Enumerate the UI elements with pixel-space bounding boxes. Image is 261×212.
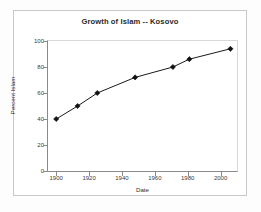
x-tick-label: 1960 [148, 175, 161, 181]
x-tick-label: 1980 [181, 175, 194, 181]
data-point-marker [187, 57, 192, 62]
line-series-svg [48, 41, 237, 171]
chart-page: Growth of Islam -- Kosovo Percent Islam … [0, 0, 261, 212]
y-tick-label: 100 [26, 38, 44, 44]
chart-title: Growth of Islam -- Kosovo [13, 17, 247, 26]
data-point-marker [54, 116, 59, 121]
data-point-marker [170, 64, 175, 69]
y-axis-title: Percent Islam [9, 61, 16, 131]
plot-area [47, 40, 238, 172]
y-tick-label: 60 [26, 90, 44, 96]
y-axis-tick-labels: 020406080100 [25, 40, 44, 172]
x-tick-label: 2000 [214, 175, 227, 181]
y-tick-label: 20 [26, 142, 44, 148]
x-tick-label: 1920 [82, 175, 95, 181]
x-tick-label: 1940 [115, 175, 128, 181]
y-tick-label: 40 [26, 116, 44, 122]
data-point-marker [133, 75, 138, 80]
y-tick-label: 80 [26, 64, 44, 70]
data-line [56, 49, 230, 119]
x-axis-title: Date [47, 186, 238, 193]
x-axis-tick-labels: 190019201940196019802000 [47, 175, 238, 185]
y-tick-label: 0 [26, 168, 44, 174]
data-point-marker [228, 46, 233, 51]
data-point-marker [95, 90, 100, 95]
data-point-marker [75, 103, 80, 108]
x-tick-label: 1900 [50, 175, 63, 181]
